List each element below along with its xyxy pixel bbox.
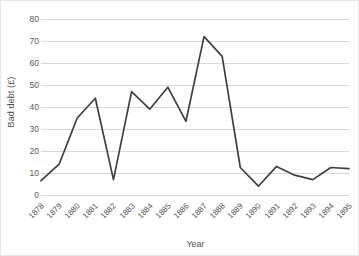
y-axis-tick-label: 20	[17, 146, 39, 156]
x-axis-tick-label: 1887	[190, 201, 209, 220]
x-axis-tick-label: 1892	[280, 201, 299, 220]
data-series-line	[41, 19, 349, 195]
x-axis-tick-label: 1888	[208, 201, 227, 220]
x-axis-tick-label: 1881	[81, 201, 100, 220]
series-polyline	[41, 37, 349, 187]
x-axis-tick-label: 1894	[317, 201, 336, 220]
x-axis-tick-label: 1890	[244, 201, 263, 220]
x-axis-tick-label: 1895	[335, 201, 354, 220]
x-axis-tick-label: 1880	[63, 201, 82, 220]
y-axis-tick-label: 10	[17, 168, 39, 178]
x-axis-tick-label: 1879	[45, 201, 64, 220]
y-axis-tick-label: 70	[17, 36, 39, 46]
x-axis-tick-label: 1882	[99, 201, 118, 220]
x-axis-tick-labels: 1878187918801881188218831884188518861887…	[41, 197, 349, 239]
x-axis-tick-label: 1878	[27, 201, 46, 220]
x-axis-tick-label: 1885	[154, 201, 173, 220]
x-axis-title: Year	[41, 239, 350, 253]
x-axis-tick-label: 1886	[172, 201, 191, 220]
x-axis-tick-label: 1891	[262, 201, 281, 220]
y-axis-tick-label: 30	[17, 124, 39, 134]
x-axis-tick-label: 1883	[117, 201, 136, 220]
gridline	[41, 195, 349, 196]
y-axis-tick-label: 0	[17, 190, 39, 200]
x-axis-tick-label: 1893	[299, 201, 318, 220]
line-chart: Bad debt (£) 01020304050607080 187818791…	[0, 0, 359, 256]
y-axis-tick-label: 60	[17, 58, 39, 68]
x-axis-tick-label: 1889	[226, 201, 245, 220]
plot-area	[41, 19, 349, 195]
y-axis-tick-label: 40	[17, 102, 39, 112]
x-axis-tick-label: 1884	[136, 201, 155, 220]
y-axis-tick-label: 80	[17, 14, 39, 24]
y-axis-tick-labels: 01020304050607080	[13, 19, 39, 195]
y-axis-tick-label: 50	[17, 80, 39, 90]
